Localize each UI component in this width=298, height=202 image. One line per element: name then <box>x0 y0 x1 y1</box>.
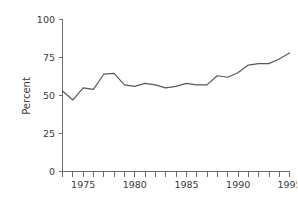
y-tick-label-50: 50 <box>43 90 55 101</box>
x-tick-label-1975: 1975 <box>71 179 95 190</box>
x-tick-label-1980: 1980 <box>123 179 147 190</box>
data-line-percent <box>63 53 290 100</box>
x-tick-label-1985: 1985 <box>174 179 198 190</box>
x-axis-tick-labels: 1975 1980 1985 1990 1995 <box>71 179 297 190</box>
y-axis: 100 75 50 25 0 Percent <box>21 14 63 177</box>
x-axis: 1975 1980 1985 1990 1995 <box>63 172 298 191</box>
x-axis-ticks <box>63 172 290 177</box>
line-chart: 100 75 50 25 0 Percent <box>0 0 297 202</box>
y-axis-ticks <box>59 20 63 172</box>
y-tick-label-75: 75 <box>43 52 55 63</box>
y-tick-label-100: 100 <box>37 14 55 25</box>
chart-figure: 100 75 50 25 0 Percent <box>0 0 297 202</box>
y-axis-tick-labels: 100 75 50 25 0 <box>37 14 55 177</box>
x-tick-label-1990: 1990 <box>226 179 250 190</box>
y-tick-label-25: 25 <box>43 128 55 139</box>
y-axis-label: Percent <box>21 77 32 115</box>
y-tick-label-0: 0 <box>49 166 55 177</box>
x-tick-label-1995: 1995 <box>277 179 297 190</box>
